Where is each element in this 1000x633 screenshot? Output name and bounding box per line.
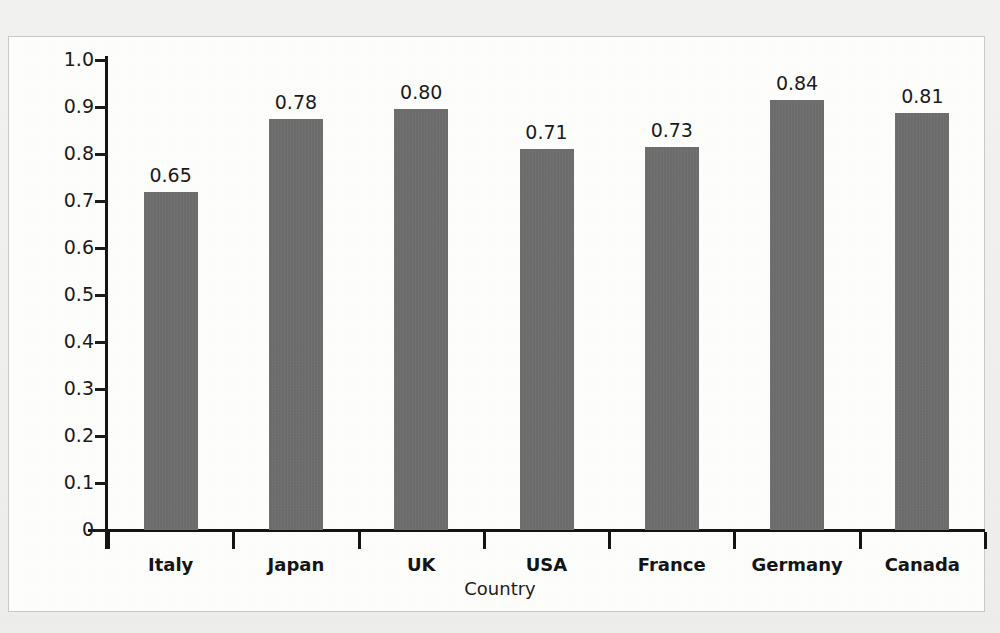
panel-grain-overlay xyxy=(9,37,984,611)
figure-panel xyxy=(8,36,985,612)
